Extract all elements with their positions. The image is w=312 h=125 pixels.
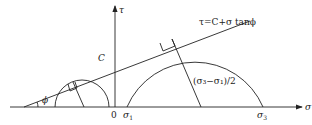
sigma1-label: σ1: [123, 110, 133, 121]
friction-angle-arc: [37, 102, 38, 107]
mohr-coulomb-diagram: σ τ 0 τ=C+σ tanϕ C ϕ (σ₃−σ₁)/2 σ1 σ3: [0, 0, 312, 125]
sigma-axis-label: σ: [305, 102, 312, 112]
large-circle-radius: [172, 39, 201, 107]
envelope-equation: τ=C+σ tanϕ: [199, 17, 256, 27]
friction-angle-label: ϕ: [42, 95, 48, 105]
origin-label: 0: [111, 110, 117, 120]
tau-axis-label: τ: [119, 5, 125, 15]
large-right-angle-mark: [160, 39, 175, 51]
small-circle-radius: [73, 82, 84, 107]
sigma3-label: σ3: [257, 110, 267, 121]
cohesion-label: C: [98, 53, 105, 63]
radius-label: (σ₃−σ₁)/2: [193, 76, 236, 86]
